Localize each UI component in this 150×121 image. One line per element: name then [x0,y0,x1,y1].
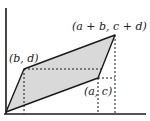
parallelogram-diagram: (a + b, c + d) (b, d) (a, c) [0,0,150,121]
sum-point-label: (a + b, c + d) [72,20,147,33]
b-point-label: (b, d) [9,52,39,65]
a-point-label: (a, c) [84,85,112,98]
parallelogram [6,35,115,112]
